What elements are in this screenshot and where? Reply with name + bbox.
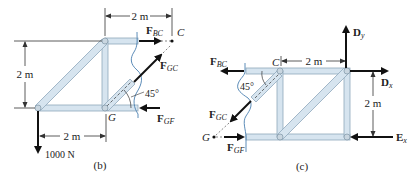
joint-C-label: C <box>272 56 280 68</box>
angle-leader <box>131 92 144 97</box>
load-label: 1000 N <box>45 149 75 160</box>
dim-top-label: 2 m <box>306 55 323 67</box>
diagram-canvas: 2 m 2 m 2 m 1000 N FBC C FGC 45° FGF G <box>0 0 416 185</box>
force-Dy-label: Dy <box>353 26 365 40</box>
member-bottom <box>246 134 350 140</box>
angle-label: 45° <box>145 88 159 99</box>
force-FGF-label: FGF <box>227 141 245 155</box>
member-vertical-left <box>277 71 283 137</box>
panel-c: FBC C 2 m 45° FGC G FGF Dy Dx 2 m E <box>202 26 407 173</box>
member-vertical-right <box>344 71 350 137</box>
joint-top <box>102 38 108 44</box>
member-bottom <box>38 105 138 111</box>
joint-F <box>277 134 283 140</box>
force-Dx-label: Dx <box>381 76 393 90</box>
panel-b-members <box>35 38 138 111</box>
force-FGF-label: FGF <box>157 112 175 126</box>
member-diagonal <box>277 68 349 140</box>
joint-left <box>35 105 41 111</box>
panel-b: 2 m 2 m 2 m 1000 N FBC C FGC 45° FGF G <box>14 8 185 172</box>
force-FGC-label: FGC <box>209 108 228 122</box>
point-C-label: C <box>177 26 185 38</box>
joint-C <box>277 68 283 74</box>
truss-free-body-diagrams: 2 m 2 m 2 m 1000 N FBC C FGC 45° FGF G <box>0 0 416 185</box>
caption-c: (c) <box>296 160 309 173</box>
dim-left-label: 2 m <box>17 68 34 80</box>
dim-right-label: 2 m <box>365 97 382 109</box>
force-FBC-label: FBC <box>146 24 164 38</box>
panel-c-members <box>246 68 350 140</box>
force-FGC-arrow <box>231 101 251 121</box>
line-of-action <box>163 45 171 53</box>
point-G <box>212 135 215 138</box>
line-of-action <box>215 123 229 136</box>
dim-top-label: 2 m <box>132 10 149 22</box>
point-G-label: G <box>202 131 210 143</box>
joint-E <box>344 134 350 140</box>
joint-G-label: G <box>108 111 116 123</box>
caption-b: (b) <box>94 159 107 172</box>
force-FGC-arrow <box>134 55 161 82</box>
member-GC-centerline <box>107 81 132 106</box>
member-vertical <box>102 41 108 108</box>
member-diagonal-left <box>35 39 107 111</box>
point-C <box>170 39 173 42</box>
joint-D <box>344 68 350 74</box>
angle-label: 45° <box>240 81 254 92</box>
member-top <box>105 38 138 44</box>
force-FBC-label: FBC <box>210 55 228 69</box>
dim-bottom-label: 2 m <box>64 130 81 142</box>
force-FGC-label: FGC <box>160 59 179 73</box>
force-Ex-label: Ex <box>396 131 407 145</box>
